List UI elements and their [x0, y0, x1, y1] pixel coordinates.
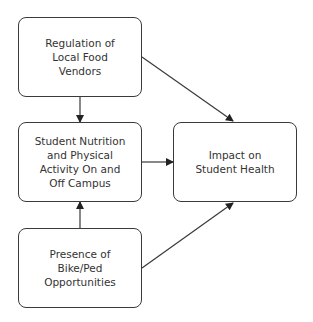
edge-bikeped-to-impact [142, 203, 233, 268]
node-regulation-of-local-food-vendors: Regulation of Local Food Vendors [18, 17, 142, 97]
node-impact-on-student-health: Impact on Student Health [173, 122, 297, 202]
node-presence-of-bike-ped-opportunities: Presence of Bike/Ped Opportunities [18, 228, 142, 308]
edge-regulation-to-impact [142, 57, 233, 121]
node-label: Student Nutrition and Physical Activity … [35, 134, 126, 190]
node-student-nutrition-physical-activity: Student Nutrition and Physical Activity … [18, 122, 142, 202]
node-label: Impact on Student Health [195, 148, 274, 176]
flow-diagram: Regulation of Local Food Vendors Student… [0, 0, 313, 322]
node-label: Presence of Bike/Ped Opportunities [44, 247, 116, 289]
node-label: Regulation of Local Food Vendors [45, 36, 115, 78]
